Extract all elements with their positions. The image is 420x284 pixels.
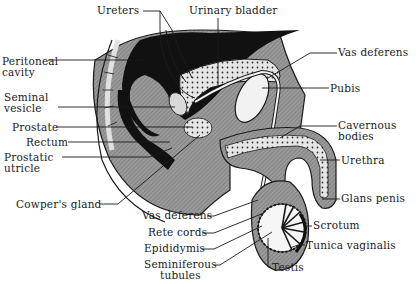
label-rectum: Rectum	[26, 137, 68, 148]
label-ureters: Ureters	[97, 5, 139, 16]
label-seminal-vesicle: Seminal vesicle	[4, 92, 49, 114]
label-cavernous-bodies: Cavernous bodies	[338, 120, 397, 142]
label-urethra: Urethra	[341, 155, 385, 166]
label-glans-penis: Glans penis	[341, 193, 405, 204]
prostate-shape	[184, 118, 212, 138]
label-pubis: Pubis	[330, 83, 360, 94]
label-rete-cords: Rete cords	[148, 227, 207, 238]
label-epididymis: Epididymis	[144, 243, 205, 254]
label-urinary-bladder: Urinary bladder	[189, 5, 278, 16]
label-cowpers-gland: Cowper's gland	[16, 199, 102, 210]
label-vas-deferens-top: Vas deferens	[338, 47, 408, 58]
label-tunica-vaginalis: Tunica vaginalis	[306, 240, 396, 251]
label-prostatic-utricle: Prostatic utricle	[4, 152, 54, 174]
label-seminiferous-tubules: Seminiferous tubules	[144, 259, 217, 281]
label-peritoneal-cavity: Peritoneal cavity	[2, 56, 58, 78]
label-prostate: Prostate	[12, 122, 58, 133]
label-scrotum: Scrotum	[313, 220, 360, 231]
label-vas-deferens-bottom: Vas deferens	[142, 210, 212, 221]
anatomy-diagram: Ureters Urinary bladder Peritoneal cavit…	[0, 0, 420, 284]
label-testis: Testis	[272, 262, 304, 273]
